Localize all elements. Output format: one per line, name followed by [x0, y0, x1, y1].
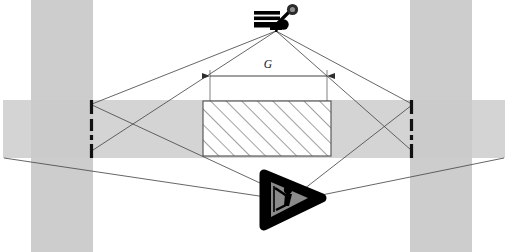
corridor-sightline-diagram: G: [0, 0, 511, 252]
camera-lens-inner: [290, 7, 295, 12]
observer-stand: [276, 28, 277, 32]
corridor-junction-right: [410, 100, 472, 158]
camera-bar-mid: [254, 17, 280, 21]
diagram-canvas: G: [0, 0, 511, 252]
target-person-head: [284, 186, 292, 194]
corridor-junction-left: [31, 100, 93, 158]
obstacle-hatching: [203, 101, 331, 156]
dimension-label-g: G: [264, 58, 273, 70]
camera-bar-top: [254, 11, 280, 15]
obstacle-block: [203, 101, 331, 156]
